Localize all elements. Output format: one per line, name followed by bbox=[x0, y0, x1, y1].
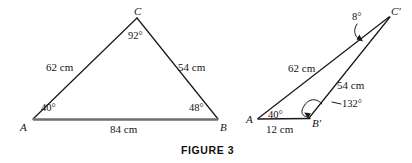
angle-label-Aprime-40: 40° bbox=[268, 110, 283, 121]
side-A-Cprime-line bbox=[258, 17, 389, 119]
angle-label-B-48: 48° bbox=[189, 103, 204, 114]
angle-label-Cprime-8: 8° bbox=[352, 12, 361, 23]
vertex-label-Bprime: B' bbox=[312, 118, 321, 129]
vertex-label-Cprime: C' bbox=[391, 6, 401, 17]
side-label-AB-84cm: 84 cm bbox=[110, 124, 137, 135]
figure-3-container: A B C 40° 48° 92° 62 cm 54 cm 84 cm A B'… bbox=[0, 0, 412, 163]
vertex-label-A: A bbox=[20, 122, 27, 133]
vertex-label-B: B bbox=[220, 122, 227, 133]
triangle-ABprimeCprime-shape bbox=[258, 17, 390, 119]
vertex-label-C: C bbox=[134, 6, 141, 17]
side-label-AC-62cm: 62 cm bbox=[46, 62, 73, 73]
angle-label-A-40: 40° bbox=[41, 103, 56, 114]
side-label-Bprime-Cprime-54cm: 54 cm bbox=[337, 80, 364, 91]
side-label-CB-54cm: 54 cm bbox=[178, 62, 205, 73]
figure-caption: FIGURE 3 bbox=[181, 144, 234, 156]
angle-label-C-92: 92° bbox=[128, 31, 143, 42]
angle-label-Bprime-132: 132° bbox=[342, 99, 362, 110]
side-label-A-Bprime-12cm: 12 cm bbox=[266, 124, 293, 135]
vertex-label-Aprime: A bbox=[246, 114, 253, 125]
side-label-A-Cprime-62cm: 62 cm bbox=[288, 63, 315, 74]
